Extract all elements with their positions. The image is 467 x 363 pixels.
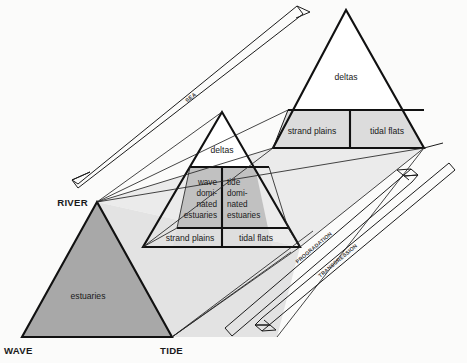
middle-deltas-label: deltas <box>211 145 234 155</box>
wave-dominated-line-3: nated <box>197 200 218 209</box>
tide-dominated-line-4: estuaries <box>227 211 260 220</box>
back-strand-plains-label: strand plains <box>288 126 337 136</box>
back-tidal-flats-label: tidal flats <box>370 126 404 136</box>
wave-dominated-line-2: domi- <box>197 189 218 198</box>
middle-deltas-face <box>190 112 255 167</box>
ternary-diagram-figure: deltas strand plains tidal flats deltas … <box>0 0 467 363</box>
tide-dominated-line-3: nated <box>227 200 248 209</box>
wave-apex-label: WAVE <box>4 345 33 356</box>
tide-dominated-line-2: domi- <box>227 189 248 198</box>
tide-dominated-line-1: tide <box>227 178 241 187</box>
front-estuaries-label: estuaries <box>71 291 106 301</box>
back-perspective-edge-right <box>424 143 443 148</box>
wave-dominated-line-1: wave <box>197 178 218 187</box>
diagram-canvas: deltas strand plains tidal flats deltas … <box>0 0 467 363</box>
back-deltas-label: deltas <box>335 72 358 82</box>
transgression-axis-label: TRANSGRESSION <box>317 242 358 278</box>
sea-axis-label: SEA <box>184 91 197 103</box>
wave-dominated-line-4: estuaries <box>184 211 217 220</box>
river-apex-label: RIVER <box>57 197 88 208</box>
tide-apex-label: TIDE <box>160 345 183 356</box>
middle-tidal-flats-label: tidal flats <box>239 233 273 243</box>
middle-strand-plains-label: strand plains <box>166 233 215 243</box>
